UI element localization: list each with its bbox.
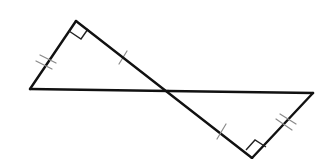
left-triangle [30,21,168,91]
geometry-diagram [0,0,322,159]
left-triangle-base [30,89,168,91]
right-triangle-top [168,91,313,93]
right-angle-marker-right [246,140,266,150]
right-triangle-short-leg [252,93,313,158]
right-angle-marker-left [69,29,88,39]
